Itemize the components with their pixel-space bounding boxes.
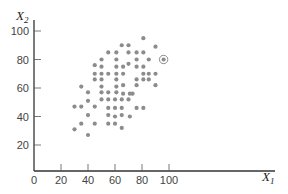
data-point [86, 90, 90, 94]
data-point [121, 83, 125, 87]
data-point [93, 63, 97, 67]
data-point [135, 50, 139, 54]
data-point [106, 90, 110, 94]
data-point [121, 92, 125, 96]
data-point [99, 77, 103, 81]
data-point [72, 104, 76, 108]
data-point [86, 99, 90, 103]
data-point [93, 77, 97, 81]
data-point [79, 122, 83, 126]
data-points [72, 36, 157, 137]
data-point [153, 72, 157, 76]
y-tick-label: 40 [17, 111, 29, 123]
data-point [106, 106, 110, 110]
data-point [147, 77, 151, 81]
data-point [135, 106, 139, 110]
y-tick-label: 20 [17, 139, 29, 151]
data-point [120, 106, 124, 110]
data-point [86, 133, 90, 137]
data-point [141, 72, 145, 76]
data-point [121, 72, 125, 76]
data-point [113, 114, 117, 118]
data-point [121, 65, 125, 69]
data-point [128, 114, 132, 118]
data-point [126, 43, 130, 47]
data-point [79, 104, 83, 108]
axes: 20406080100 020406080100 X2 X1 [11, 8, 275, 186]
data-point [114, 77, 118, 81]
outlier-point [162, 57, 166, 61]
data-point [126, 50, 130, 54]
data-point [113, 122, 117, 126]
data-point [120, 43, 124, 47]
y-tick-label: 60 [17, 82, 29, 94]
data-point [106, 113, 110, 117]
data-point [114, 90, 118, 94]
data-point [99, 84, 103, 88]
data-point [114, 50, 118, 54]
data-point [99, 72, 103, 76]
data-point [106, 122, 110, 126]
data-point [93, 104, 97, 108]
data-point [126, 62, 130, 66]
data-point [126, 97, 130, 101]
data-point [141, 50, 145, 54]
data-point [114, 65, 118, 69]
data-point [86, 113, 90, 117]
data-point [99, 65, 103, 69]
x-tick-label: 60 [109, 174, 121, 186]
x-tick-label: 20 [55, 174, 67, 186]
data-point [120, 126, 124, 130]
data-point [93, 122, 97, 126]
data-point [153, 45, 157, 49]
x-tick-label: 0 [31, 174, 37, 186]
data-point [99, 57, 103, 61]
data-point [113, 106, 117, 110]
data-point [147, 57, 151, 61]
y-tick-label: 80 [17, 54, 29, 66]
y-ticks: 20406080100 [11, 25, 41, 151]
x-tick-label: 80 [136, 174, 148, 186]
data-point [135, 77, 139, 81]
scatter-chart: 20406080100 020406080100 X2 X1 [0, 0, 288, 194]
data-point [141, 106, 145, 110]
data-point [106, 50, 110, 54]
data-point [114, 57, 118, 61]
highlighted-point [159, 55, 167, 63]
x-tick-label: 40 [82, 174, 94, 186]
data-point [79, 84, 83, 88]
data-point [141, 65, 145, 69]
data-point [135, 83, 139, 87]
x-tick-label: 100 [160, 174, 178, 186]
y-axis-title: X2 [15, 8, 29, 25]
data-point [120, 97, 124, 101]
data-point [147, 72, 151, 76]
data-point [114, 72, 118, 76]
data-point [130, 92, 134, 96]
data-point [135, 57, 139, 61]
data-point [99, 90, 103, 94]
data-point [141, 77, 145, 81]
data-point [106, 97, 110, 101]
y-tick-label: 100 [11, 25, 29, 37]
x-ticks: 020406080100 [31, 164, 178, 186]
data-point [113, 97, 117, 101]
data-point [135, 65, 139, 69]
data-point [72, 127, 76, 131]
data-point [153, 83, 157, 87]
data-point [93, 72, 97, 76]
data-point [106, 72, 110, 76]
data-point [114, 84, 118, 88]
data-point [99, 97, 103, 101]
data-point [141, 36, 145, 40]
data-point [120, 113, 124, 117]
